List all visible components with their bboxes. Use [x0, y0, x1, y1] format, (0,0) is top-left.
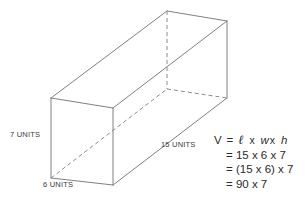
- hidden-back-bottom-edge: [167, 89, 227, 98]
- front-face-top-edge: [51, 98, 113, 108]
- prism-hidden-edges: [51, 11, 227, 178]
- depth-dimension-label: 6 UNITS: [43, 180, 73, 189]
- formula-line-substitution: = 15 x 6 x 7: [214, 148, 293, 163]
- formula-height-variable: h: [281, 134, 287, 146]
- length-dimension-label: 15 UNITS: [161, 140, 196, 149]
- top-back-edge: [167, 11, 227, 21]
- formula-grouping-text: = (15 x 6) x 7: [226, 163, 293, 175]
- formula-multiply-sign-1: x: [248, 134, 255, 146]
- prism-volume-diagram: 7 UNITS 6 UNITS 15 UNITS V = ℓ x wx h = …: [0, 0, 307, 204]
- top-left-slant-edge: [51, 11, 167, 98]
- height-dimension-label: 7 UNITS: [10, 130, 40, 139]
- formula-line-partial-product: = 90 x 7: [214, 177, 293, 192]
- formula-width-variable: w: [261, 134, 269, 146]
- formula-partial-product-text: = 90 x 7: [226, 178, 267, 190]
- formula-line-definition: V = ℓ x wx h: [214, 133, 293, 148]
- formula-substitution-text: = 15 x 6 x 7: [226, 149, 286, 161]
- volume-formula-block: V = ℓ x wx h = 15 x 6 x 7 = (15 x 6) x 7…: [214, 133, 293, 191]
- hidden-bottom-diagonal-edge: [51, 89, 167, 178]
- formula-line-grouping: = (15 x 6) x 7: [214, 162, 293, 177]
- prism-visible-edges: [51, 11, 227, 185]
- formula-volume-symbol: V: [214, 134, 222, 146]
